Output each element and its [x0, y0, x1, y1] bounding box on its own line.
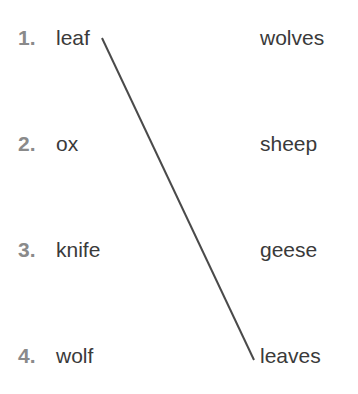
connection-line-leaf-leaves	[102, 38, 254, 360]
connection-lines	[0, 0, 358, 394]
